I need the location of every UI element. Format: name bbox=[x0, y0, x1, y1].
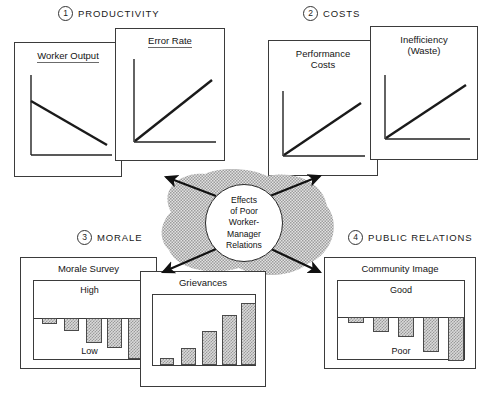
bar-5 bbox=[448, 317, 464, 361]
card-inefficiency-waste[interactable]: Inefficiency (Waste) bbox=[370, 26, 478, 160]
card-performance-costs[interactable]: Performance Costs bbox=[268, 40, 378, 176]
section-label: MORALE bbox=[97, 232, 143, 243]
bar-1 bbox=[160, 358, 174, 365]
card-morale-survey[interactable]: Morale Survey High Low bbox=[20, 257, 157, 369]
bar-3 bbox=[86, 318, 102, 343]
section-number-badge: 2 bbox=[303, 6, 318, 21]
diagram-canvas: 1 PRODUCTIVITY Worker Output Error Rate … bbox=[0, 0, 486, 395]
bar-1 bbox=[348, 317, 364, 323]
section-number-badge: 4 bbox=[348, 230, 363, 245]
bar-4 bbox=[423, 317, 439, 352]
chart-performance-costs bbox=[269, 41, 379, 177]
chart-grievances bbox=[152, 294, 256, 366]
bar-4 bbox=[107, 318, 122, 348]
section-label: PUBLIC RELATIONS bbox=[368, 232, 473, 243]
card-title-morale-survey: Morale Survey bbox=[21, 264, 156, 275]
chart-morale-survey: High Low bbox=[33, 280, 146, 360]
chart-error-rate bbox=[116, 29, 226, 162]
hub-line-3: Worker- bbox=[229, 217, 259, 228]
axis-label-poor: Poor bbox=[338, 346, 464, 356]
bar-4 bbox=[222, 315, 237, 365]
hub-line-2: of Poor bbox=[230, 206, 258, 217]
axis-label-high: High bbox=[34, 285, 145, 295]
bar-2 bbox=[373, 317, 389, 332]
section-label: COSTS bbox=[323, 8, 360, 19]
hub-line-5: Relations bbox=[226, 240, 262, 251]
card-worker-output[interactable]: Worker Output bbox=[14, 42, 122, 177]
section-heading-public-relations: 4 PUBLIC RELATIONS bbox=[348, 230, 473, 245]
axis-label-good: Good bbox=[338, 285, 464, 295]
chart-inefficiency-waste bbox=[371, 27, 479, 161]
card-error-rate[interactable]: Error Rate bbox=[115, 28, 225, 161]
bar-5 bbox=[241, 303, 256, 365]
hub-line-4: Manager bbox=[227, 229, 261, 240]
section-heading-productivity: 1 PRODUCTIVITY bbox=[58, 6, 160, 21]
hub-line-1: Effects bbox=[231, 195, 257, 206]
card-title-community-image: Community Image bbox=[325, 264, 475, 275]
bar-1 bbox=[42, 318, 57, 324]
card-title-grievances: Grievances bbox=[141, 278, 265, 289]
bar-3 bbox=[398, 317, 414, 337]
section-heading-morale: 3 MORALE bbox=[77, 230, 143, 245]
hub-label: Effects of Poor Worker- Manager Relation… bbox=[205, 184, 283, 262]
card-community-image[interactable]: Community Image Good Poor bbox=[324, 257, 476, 369]
chart-community-image: Good Poor bbox=[337, 280, 465, 360]
bar-3 bbox=[202, 331, 217, 365]
bar-2 bbox=[64, 318, 79, 331]
section-number-badge: 1 bbox=[58, 6, 73, 21]
card-grievances[interactable]: Grievances bbox=[140, 271, 266, 387]
section-heading-costs: 2 COSTS bbox=[303, 6, 360, 21]
chart-worker-output bbox=[15, 43, 123, 178]
bar-2 bbox=[181, 348, 196, 365]
section-label: PRODUCTIVITY bbox=[78, 8, 160, 19]
section-number-badge: 3 bbox=[77, 230, 92, 245]
